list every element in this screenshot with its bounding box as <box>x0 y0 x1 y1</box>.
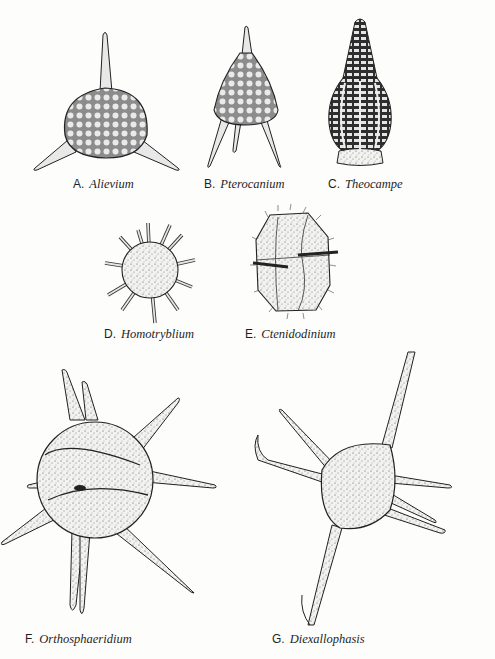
figure-c-caption: C.Theocampe <box>328 177 403 192</box>
figure-g-caption: G.Diexallophasis <box>272 632 365 647</box>
genus-name: Ctenidodinium <box>261 327 335 341</box>
panel-letter: A. <box>73 177 84 191</box>
genus-name: Homotryblium <box>121 327 194 341</box>
figure-g-diexallophasis-drawing <box>250 350 460 630</box>
genus-name: Theocampe <box>345 177 403 191</box>
figure-b-pterocanium-drawing <box>200 25 290 175</box>
figure-c-theocampe-drawing <box>325 18 395 168</box>
genus-name: Orthosphaeridium <box>39 632 131 646</box>
figure-d-caption: D.Homotryblium <box>104 327 194 342</box>
panel-letter: G. <box>272 632 285 646</box>
figure-b-caption: B.Pterocanium <box>204 177 284 192</box>
figure-f-orthosphaeridium-drawing <box>0 370 240 630</box>
figure-a-alievium-drawing <box>30 30 190 180</box>
genus-name: Diexallophasis <box>290 632 365 646</box>
panel-letter: C. <box>328 177 340 191</box>
panel-letter: B. <box>204 177 215 191</box>
panel-letter: F. <box>25 632 34 646</box>
figure-f-caption: F.Orthosphaeridium <box>25 632 132 647</box>
figure-e-caption: E.Ctenidodinium <box>245 327 336 342</box>
genus-name: Alievium <box>89 177 133 191</box>
panel-letter: D. <box>104 327 116 341</box>
figure-e-ctenidodinium-drawing <box>248 205 338 320</box>
genus-name: Pterocanium <box>220 177 284 191</box>
figure-a-caption: A.Alievium <box>73 177 134 192</box>
figure-d-homotryblium-drawing <box>100 215 200 325</box>
panel-letter: E. <box>245 327 256 341</box>
